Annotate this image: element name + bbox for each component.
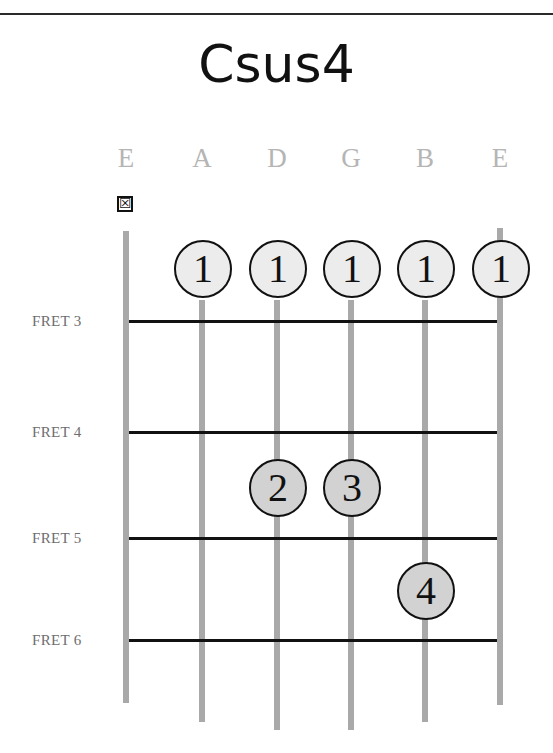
finger-dot-barre-high-e: 1 — [472, 240, 530, 298]
string-label-low-e: E — [106, 143, 146, 174]
string-low-e — [123, 231, 129, 703]
string-label-a: A — [182, 143, 222, 174]
finger-dot-3-g: 3 — [323, 459, 381, 517]
muted-string-icon: ☒ — [117, 196, 133, 212]
fret-line-3 — [129, 320, 497, 323]
chord-title: Csus4 — [0, 34, 553, 94]
fret-label-4: FRET 4 — [32, 424, 112, 441]
finger-dot-barre-d: 1 — [249, 240, 307, 298]
fret-line-5 — [129, 537, 497, 540]
finger-dot-barre-b: 1 — [397, 240, 455, 298]
finger-dot-2-d: 2 — [249, 459, 307, 517]
fret-label-5: FRET 5 — [32, 530, 112, 547]
fret-label-3: FRET 3 — [32, 313, 112, 330]
finger-dot-barre-a: 1 — [174, 240, 232, 298]
string-b — [422, 300, 428, 722]
string-label-g: G — [331, 143, 371, 174]
string-label-d: D — [257, 143, 297, 174]
finger-dot-barre-g: 1 — [323, 240, 381, 298]
fret-label-6: FRET 6 — [32, 632, 112, 649]
string-high-e — [497, 228, 503, 705]
fret-line-4 — [129, 431, 497, 434]
finger-dot-4-b: 4 — [397, 562, 455, 620]
string-label-high-e: E — [480, 143, 520, 174]
string-label-b: B — [405, 143, 445, 174]
top-rule — [0, 13, 553, 15]
fret-line-6 — [129, 639, 497, 642]
string-a — [199, 300, 205, 722]
